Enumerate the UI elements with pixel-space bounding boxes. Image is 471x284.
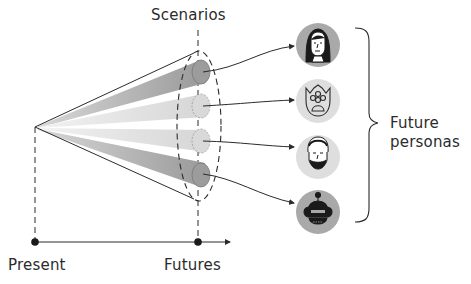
present-label: Present — [8, 256, 66, 274]
connector-1 — [203, 46, 294, 72]
future-personas-brace — [355, 28, 378, 222]
scenario-cylinder-ends — [192, 60, 210, 187]
scenarios-label: Scenarios — [151, 6, 226, 24]
connector-3 — [203, 141, 294, 147]
persona-2 — [296, 79, 340, 123]
futures-point — [194, 238, 202, 246]
persona-1 — [296, 23, 340, 67]
persona-4 — [296, 190, 340, 234]
futures-label: Futures — [164, 256, 221, 274]
persona-3 — [296, 135, 340, 179]
connector-4 — [203, 174, 294, 203]
present-point — [31, 238, 39, 246]
future-personas-label: Future personas — [390, 114, 470, 152]
scenario-end-1 — [192, 60, 210, 84]
future-personas-line-2: personas — [390, 133, 470, 152]
future-personas-line-1: Future — [390, 114, 470, 133]
man-avatar-icon — [308, 137, 328, 169]
scenario-beams — [38, 61, 205, 186]
scenario-connectors — [203, 46, 294, 203]
connector-2 — [203, 100, 294, 106]
